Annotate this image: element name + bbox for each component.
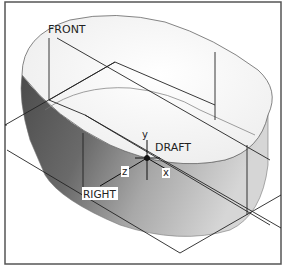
axis-y-label: y bbox=[142, 129, 148, 140]
model-viewport[interactable]: FRONT DRAFT RIGHT y z x bbox=[0, 0, 284, 269]
front-plane-label[interactable]: FRONT bbox=[48, 23, 86, 36]
draft-label[interactable]: DRAFT bbox=[155, 141, 191, 154]
axis-x-label: x bbox=[163, 167, 169, 178]
right-plane-label[interactable]: RIGHT bbox=[83, 188, 116, 200]
axis-z-label: z bbox=[122, 166, 127, 177]
